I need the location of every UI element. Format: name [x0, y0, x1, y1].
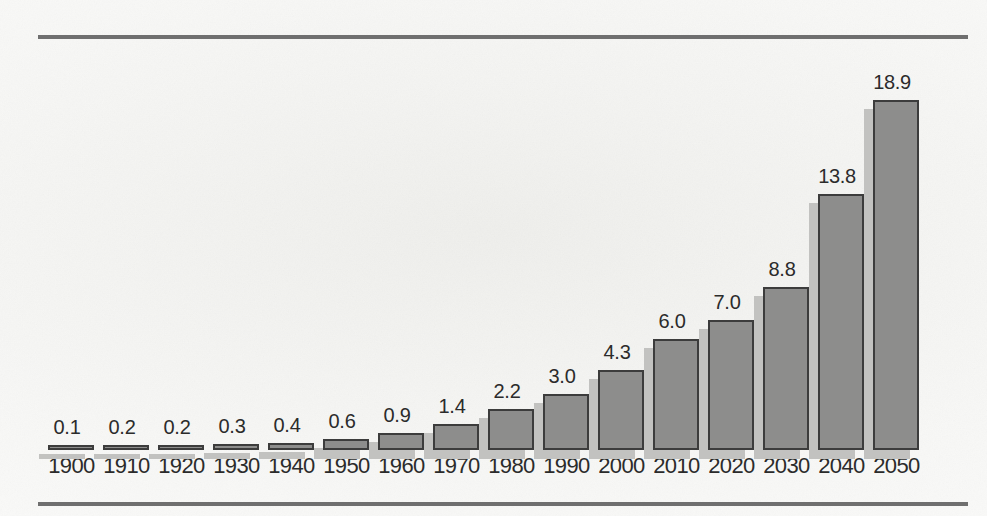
bar[interactable] [268, 443, 314, 450]
bar-drop-shadow [94, 454, 140, 459]
bar-column [708, 320, 754, 450]
bar-group-2050: 18.92050 [869, 39, 924, 502]
bar[interactable] [818, 194, 864, 450]
bar-column [873, 100, 919, 450]
bar-column [48, 445, 94, 450]
bar-drop-shadow [204, 453, 250, 459]
bar[interactable] [653, 339, 699, 450]
bar[interactable] [708, 320, 754, 450]
bar-group-1950: 0.61950 [319, 39, 374, 502]
plot-area: 0.119000.219100.219200.319300.419400.619… [38, 39, 968, 502]
bar-drop-shadow [39, 454, 85, 459]
bar-column [378, 433, 424, 450]
chart-page: 0.119000.219100.219200.319300.419400.619… [0, 0, 987, 516]
bar-value-label: 13.8 [808, 165, 866, 188]
bar[interactable] [378, 433, 424, 450]
bar[interactable] [213, 444, 259, 450]
bar-group-1910: 0.21910 [99, 39, 154, 502]
bar-value-label: 8.8 [753, 258, 811, 281]
bar-value-label: 18.9 [863, 71, 921, 94]
bar-value-label: 0.2 [93, 416, 151, 439]
bar-group-1900: 0.11900 [44, 39, 99, 502]
bar[interactable] [48, 445, 94, 450]
bar-value-label: 4.3 [588, 341, 646, 364]
bar[interactable] [543, 394, 589, 450]
chart-bottom-rule [38, 502, 968, 506]
bar-column [323, 439, 369, 450]
bar-group-2020: 7.02020 [704, 39, 759, 502]
bar-group-2040: 13.82040 [814, 39, 869, 502]
bar[interactable] [323, 439, 369, 450]
bar-column [268, 443, 314, 450]
bar[interactable] [763, 287, 809, 450]
bar-value-label: 0.2 [148, 416, 206, 439]
bar-group-1920: 0.21920 [154, 39, 209, 502]
bar-value-label: 0.6 [313, 410, 371, 433]
bar-drop-shadow [149, 454, 195, 459]
bar-drop-shadow [259, 452, 305, 459]
bar-column [213, 444, 259, 450]
bar-value-label: 0.4 [258, 414, 316, 437]
bar-value-label: 0.3 [203, 415, 261, 438]
bar[interactable] [103, 445, 149, 450]
bar-value-label: 7.0 [698, 291, 756, 314]
bar-group-2030: 8.82030 [759, 39, 814, 502]
bar-value-label: 1.4 [423, 395, 481, 418]
bar-group-1980: 2.21980 [484, 39, 539, 502]
bar-value-label: 0.1 [38, 416, 96, 439]
bar-value-label: 2.2 [478, 380, 536, 403]
bar[interactable] [488, 409, 534, 450]
bar-column [598, 370, 644, 450]
bar-group-2000: 4.32000 [594, 39, 649, 502]
bar-column [103, 445, 149, 450]
bar-value-label: 0.9 [368, 404, 426, 427]
bar-column [158, 445, 204, 450]
bar-column [488, 409, 534, 450]
bar[interactable] [158, 445, 204, 450]
bar-column [433, 424, 479, 450]
bar-column [818, 194, 864, 450]
bar-column [763, 287, 809, 450]
bar[interactable] [873, 100, 919, 450]
bar[interactable] [433, 424, 479, 450]
bar-column [543, 394, 589, 450]
bar-group-1930: 0.31930 [209, 39, 264, 502]
bar-group-1940: 0.41940 [264, 39, 319, 502]
bar-value-label: 6.0 [643, 310, 701, 333]
bar-group-1990: 3.01990 [539, 39, 594, 502]
bar-column [653, 339, 699, 450]
bar-group-1960: 0.91960 [374, 39, 429, 502]
bar-value-label: 3.0 [533, 365, 591, 388]
bar[interactable] [598, 370, 644, 450]
bar-group-2010: 6.02010 [649, 39, 704, 502]
bar-group-1970: 1.41970 [429, 39, 484, 502]
